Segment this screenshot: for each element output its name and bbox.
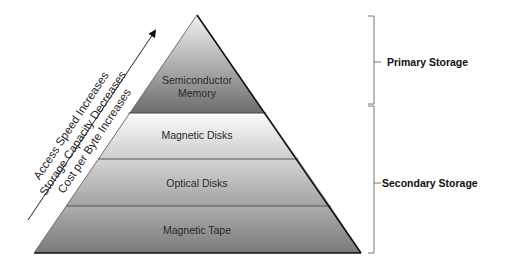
level-semiconductor-memory <box>129 15 266 115</box>
primary-storage-label: Primary Storage <box>387 56 468 68</box>
storage-brackets: Primary Storage Secondary Storage <box>368 16 478 253</box>
level-label: Memory <box>178 87 217 99</box>
level-label: Magnetic Tape <box>163 224 231 236</box>
level-label: Optical Disks <box>166 177 227 189</box>
primary-bracket <box>368 16 374 104</box>
level-label: Semiconductor <box>162 74 233 86</box>
memory-hierarchy-diagram: Semiconductor Memory Magnetic Disks Opti… <box>0 0 508 269</box>
level-label: Magnetic Disks <box>161 129 232 141</box>
secondary-bracket <box>368 106 374 253</box>
secondary-storage-label: Secondary Storage <box>382 177 478 189</box>
